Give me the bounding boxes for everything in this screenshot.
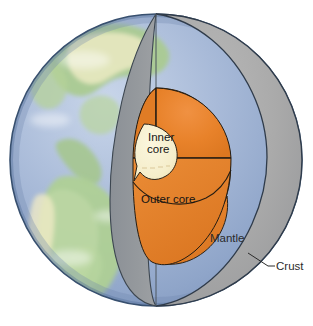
outer-core-label: Outer core xyxy=(141,193,195,205)
inner-core-label-line2: core xyxy=(147,143,169,155)
inner-core-label-line1: Inner xyxy=(148,131,174,143)
diagram-canvas: Inner core Outer core Mantle Crust xyxy=(0,0,313,326)
crust-label: Crust xyxy=(276,260,304,272)
earth-interior-diagram: Inner core Outer core Mantle Crust xyxy=(0,0,313,326)
mantle-label: Mantle xyxy=(210,232,245,244)
